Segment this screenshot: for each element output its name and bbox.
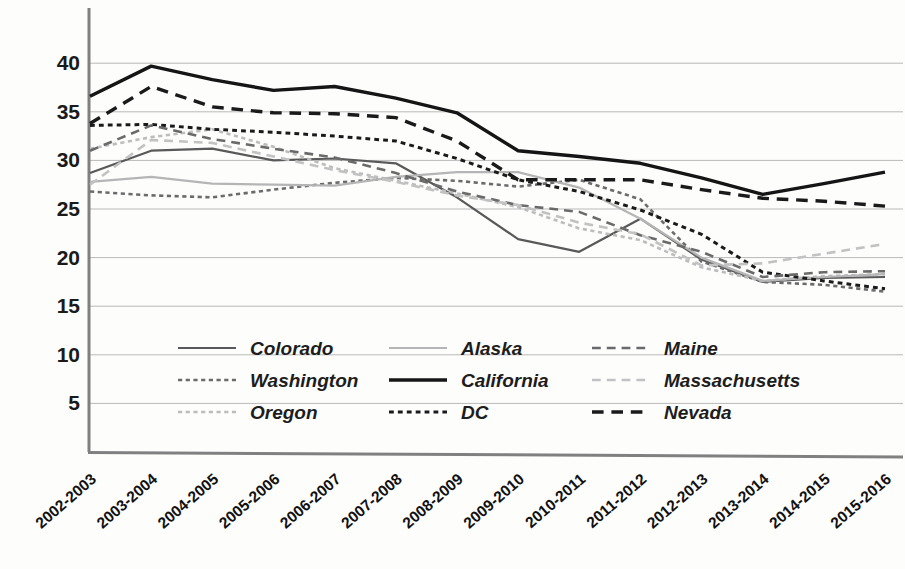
svg-text:2005-2006: 2005-2006 xyxy=(216,470,283,532)
x-tick-label-2003-2004: 2003-2004 xyxy=(93,470,160,532)
x-tick-label-2005-2006: 2005-2006 xyxy=(216,470,283,532)
series-line-nevada xyxy=(90,87,885,207)
y-tick-label-40: 40 xyxy=(57,51,80,74)
x-tick-label-2011-2012: 2011-2012 xyxy=(583,470,649,531)
svg-text:2007-2008: 2007-2008 xyxy=(338,470,405,532)
legend-label-alaska: Alaska xyxy=(460,338,523,359)
x-tick-label-2008-2009: 2008-2009 xyxy=(399,470,466,532)
x-tick-label-2002-2003: 2002-2003 xyxy=(32,470,99,532)
series-line-oregon xyxy=(90,129,885,281)
x-tick-label-2006-2007: 2006-2007 xyxy=(277,470,344,531)
x-tick-label-2004-2005: 2004-2005 xyxy=(154,470,221,532)
svg-text:2004-2005: 2004-2005 xyxy=(154,470,221,532)
chart-container: 5101520253035402002-20032003-20042004-20… xyxy=(0,0,905,569)
x-tick-label-2009-2010: 2009-2010 xyxy=(460,470,527,531)
legend-label-california: California xyxy=(461,370,549,391)
legend-label-oregon: Oregon xyxy=(250,402,318,423)
y-tick-label-10: 10 xyxy=(57,343,80,366)
x-tick-label-2013-2014: 2013-2014 xyxy=(705,470,772,532)
y-tick-label-35: 35 xyxy=(57,100,81,123)
legend-label-dc: DC xyxy=(461,402,489,423)
legend-label-maine: Maine xyxy=(664,338,718,359)
svg-text:2011-2012: 2011-2012 xyxy=(583,470,649,531)
x-axis xyxy=(88,453,903,458)
svg-text:2015-2016: 2015-2016 xyxy=(827,470,894,532)
svg-text:2013-2014: 2013-2014 xyxy=(705,470,772,532)
y-tick-label-25: 25 xyxy=(57,197,81,220)
legend-label-colorado: Colorado xyxy=(250,338,333,359)
svg-text:2003-2004: 2003-2004 xyxy=(93,470,160,532)
svg-text:2010-2011: 2010-2011 xyxy=(522,470,589,531)
line-chart: 5101520253035402002-20032003-20042004-20… xyxy=(0,0,905,569)
y-tick-label-30: 30 xyxy=(57,148,80,171)
svg-text:2008-2009: 2008-2009 xyxy=(399,470,466,532)
svg-text:2009-2010: 2009-2010 xyxy=(460,470,527,531)
x-tick-label-2015-2016: 2015-2016 xyxy=(827,470,894,532)
legend-label-massachusetts: Massachusetts xyxy=(664,370,800,391)
legend-label-nevada: Nevada xyxy=(664,402,732,423)
y-tick-label-20: 20 xyxy=(57,246,80,269)
y-tick-label-5: 5 xyxy=(68,391,80,414)
svg-text:2012-2013: 2012-2013 xyxy=(644,470,711,532)
svg-text:2002-2003: 2002-2003 xyxy=(32,470,99,532)
x-tick-label-2012-2013: 2012-2013 xyxy=(644,470,711,532)
series-line-alaska xyxy=(90,172,885,281)
legend-label-washington: Washington xyxy=(250,370,358,391)
series-line-massachusetts xyxy=(90,140,885,265)
y-tick-label-15: 15 xyxy=(57,294,81,317)
svg-text:2014-2015: 2014-2015 xyxy=(766,470,833,532)
x-tick-label-2007-2008: 2007-2008 xyxy=(338,470,405,532)
x-tick-label-2010-2011: 2010-2011 xyxy=(522,470,589,531)
x-tick-label-2014-2015: 2014-2015 xyxy=(766,470,833,532)
svg-text:2006-2007: 2006-2007 xyxy=(277,470,344,531)
